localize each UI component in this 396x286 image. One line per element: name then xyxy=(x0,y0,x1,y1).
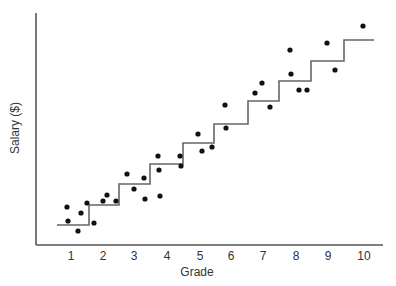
data-point xyxy=(65,218,70,223)
y-axis-label: Salary ($) xyxy=(8,102,22,154)
x-tick-label: 3 xyxy=(131,249,138,263)
data-point xyxy=(296,87,301,92)
data-point xyxy=(155,153,160,158)
data-point xyxy=(267,104,272,109)
data-point xyxy=(104,192,109,197)
x-tick-label: 10 xyxy=(357,249,371,263)
data-point xyxy=(288,71,293,76)
x-tick-label: 2 xyxy=(100,249,107,263)
data-point xyxy=(78,210,83,215)
data-point xyxy=(142,196,147,201)
data-point xyxy=(141,175,146,180)
data-point xyxy=(287,47,292,52)
data-points xyxy=(64,23,365,233)
data-point xyxy=(84,200,89,205)
data-point xyxy=(222,102,227,107)
x-tick-label: 1 xyxy=(68,249,75,263)
x-tick-label: 9 xyxy=(325,249,332,263)
data-point xyxy=(332,67,337,72)
data-point xyxy=(157,193,162,198)
x-tick-label: 7 xyxy=(260,249,267,263)
data-point xyxy=(64,204,69,209)
data-point xyxy=(178,163,183,168)
data-point xyxy=(156,167,161,172)
data-point xyxy=(223,125,228,130)
x-tick-label: 5 xyxy=(197,249,204,263)
salary-step-line xyxy=(57,40,374,225)
data-point xyxy=(324,40,329,45)
data-point xyxy=(199,148,204,153)
data-point xyxy=(124,171,129,176)
x-axis-label: Grade xyxy=(180,265,214,279)
data-point xyxy=(113,198,118,203)
data-point xyxy=(252,90,257,95)
x-tick-label: 6 xyxy=(228,249,235,263)
data-point xyxy=(209,144,214,149)
data-point xyxy=(195,131,200,136)
data-point xyxy=(75,228,80,233)
axes xyxy=(36,13,383,245)
x-tick-label: 8 xyxy=(293,249,300,263)
salary-grade-chart: 12345678910 Grade Salary ($) xyxy=(0,0,396,286)
x-tick-label: 4 xyxy=(164,249,171,263)
x-tick-labels: 12345678910 xyxy=(68,249,371,263)
data-point xyxy=(360,23,365,28)
data-point xyxy=(131,186,136,191)
data-point xyxy=(177,153,182,158)
data-point xyxy=(100,198,105,203)
data-point xyxy=(259,80,264,85)
data-point xyxy=(304,87,309,92)
data-point xyxy=(91,220,96,225)
